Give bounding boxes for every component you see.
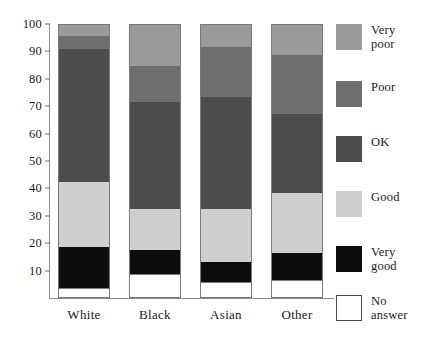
y-axis-tick: 80: [29, 71, 50, 86]
y-axis-tick-mark: [45, 243, 50, 244]
y-axis-tick-label: 40: [29, 181, 45, 196]
y-axis-tick-mark: [45, 51, 50, 52]
y-axis-tick: 100: [23, 17, 50, 32]
bar-segment-very-poor: [59, 25, 109, 36]
y-axis-tick-label: 50: [29, 154, 45, 169]
legend-swatch-very-poor: [336, 24, 362, 50]
bar-segment-very-good: [59, 247, 109, 288]
plot-area: 102030405060708090100: [50, 24, 332, 298]
legend-label: Good: [371, 191, 400, 205]
bar-segment-good: [130, 209, 180, 250]
y-axis-tick-mark: [45, 270, 50, 271]
bar-segment-very-good: [272, 253, 322, 280]
y-axis-tick-mark: [45, 133, 50, 134]
y-axis-tick-mark: [45, 78, 50, 79]
y-axis-tick-label: 10: [29, 263, 45, 278]
y-axis-tick-mark: [45, 24, 50, 25]
bar-segment-very-poor: [130, 25, 180, 66]
bar-segment-very-poor: [272, 25, 322, 55]
y-axis-tick-label: 70: [29, 99, 45, 114]
y-axis-tick-mark: [45, 106, 50, 107]
bar-segment-ok: [59, 49, 109, 182]
y-axis-tick-label: 90: [29, 44, 45, 59]
x-axis-label-white: White: [44, 307, 124, 323]
y-axis-tick-label: 20: [29, 236, 45, 251]
bar-segment-poor: [201, 47, 251, 97]
legend-swatch-ok: [336, 136, 362, 162]
y-axis-tick: 70: [29, 99, 50, 114]
x-axis-label-black: Black: [115, 307, 195, 323]
legend-label: OK: [371, 136, 389, 150]
x-axis-label-other: Other: [257, 307, 337, 323]
legend-label: Very good: [371, 246, 397, 273]
y-axis-tick-label: 100: [23, 17, 45, 32]
y-axis-tick: 20: [29, 236, 50, 251]
legend-swatch-no-answer: [336, 295, 362, 321]
legend-item-good[interactable]: Good: [336, 191, 400, 217]
y-axis-tick: 10: [29, 263, 50, 278]
stacked-bar-chart: 102030405060708090100 WhiteBlackAsianOth…: [0, 0, 427, 341]
bar-segment-poor: [130, 66, 180, 103]
bar-asian[interactable]: [200, 24, 252, 298]
x-axis-label-asian: Asian: [186, 307, 266, 323]
bar-segment-very-good: [201, 262, 251, 282]
bar-segment-no-answer: [59, 288, 109, 297]
y-axis-tick: 40: [29, 181, 50, 196]
legend-swatch-poor: [336, 81, 362, 107]
bar-segment-good: [272, 193, 322, 253]
legend-item-poor[interactable]: Poor: [336, 81, 395, 107]
y-axis-tick-label: 60: [29, 126, 45, 141]
bar-segment-no-answer: [130, 274, 180, 297]
legend-item-no-answer[interactable]: No answer: [336, 295, 408, 322]
legend-label: Very poor: [371, 24, 395, 51]
legend-item-ok[interactable]: OK: [336, 136, 389, 162]
legend-label: Poor: [371, 81, 395, 95]
y-axis-tick-mark: [45, 215, 50, 216]
y-axis-tick: 60: [29, 126, 50, 141]
y-axis-tick-mark: [45, 188, 50, 189]
bar-segment-no-answer: [201, 282, 251, 297]
legend-item-very-good[interactable]: Very good: [336, 246, 397, 273]
bar-segment-ok: [130, 102, 180, 209]
y-axis-tick-mark: [45, 161, 50, 162]
legend-label: No answer: [371, 295, 408, 322]
bar-other[interactable]: [271, 24, 323, 298]
bar-segment-very-poor: [201, 25, 251, 47]
bar-segment-ok: [201, 97, 251, 209]
x-axis-line: [49, 298, 334, 299]
y-axis-tick-label: 30: [29, 208, 45, 223]
bar-segment-poor: [59, 36, 109, 50]
bar-black[interactable]: [129, 24, 181, 298]
bar-segment-good: [201, 209, 251, 262]
bar-segment-good: [59, 182, 109, 247]
bar-segment-ok: [272, 114, 322, 193]
y-axis-tick: 90: [29, 44, 50, 59]
y-axis-tick: 30: [29, 208, 50, 223]
legend-swatch-very-good: [336, 246, 362, 272]
legend-swatch-good: [336, 191, 362, 217]
y-axis-tick: 50: [29, 154, 50, 169]
bar-segment-poor: [272, 55, 322, 115]
bar-white[interactable]: [58, 24, 110, 298]
bar-segment-very-good: [130, 250, 180, 274]
y-axis-tick-label: 80: [29, 71, 45, 86]
legend-item-very-poor[interactable]: Very poor: [336, 24, 395, 51]
bar-segment-no-answer: [272, 280, 322, 297]
